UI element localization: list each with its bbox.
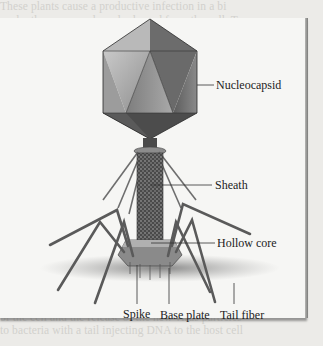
label-base-plate: Base plate (160, 308, 210, 322)
label-tail-fiber: Tail fiber (220, 308, 264, 322)
label-spike: Spike (123, 307, 150, 321)
label-sheath: Sheath (215, 178, 248, 192)
sheath (137, 153, 163, 241)
bacteriophage-illustration (0, 0, 323, 346)
nucleocapsid-head (103, 19, 197, 139)
label-hollow-core: Hollow core (217, 236, 277, 250)
label-nucleocapsid: Nucleocapsid (216, 78, 281, 92)
collar (134, 138, 166, 155)
